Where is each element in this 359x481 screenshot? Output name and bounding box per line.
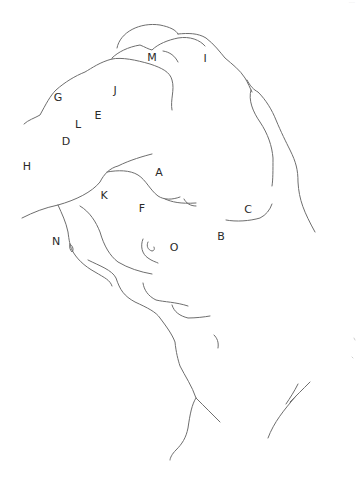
faint-mark: [354, 338, 355, 340]
label-m: M: [147, 52, 157, 63]
label-h: H: [23, 161, 31, 172]
outline-small-tick: [214, 335, 218, 348]
outline-k-line: [80, 206, 152, 274]
label-l: L: [75, 119, 81, 130]
label-n: N: [52, 236, 60, 247]
outline-lower-left: [88, 260, 220, 422]
outline-upper-back: [112, 58, 173, 110]
outline-a-hook: [184, 199, 196, 206]
label-k: K: [100, 190, 107, 201]
label-i: I: [203, 53, 206, 64]
corner-smudge: ·····: [349, 0, 355, 5]
outline-top-arc: [117, 24, 178, 48]
outline-m-ridge: [112, 37, 205, 58]
label-g: G: [54, 92, 63, 103]
label-o: O: [170, 242, 179, 253]
outline-a-tail: [165, 199, 196, 203]
outline-mid-curve-2: [172, 305, 210, 318]
outline-n-arm: [58, 205, 112, 286]
label-j: J: [113, 85, 116, 96]
label-b: B: [217, 231, 225, 242]
outline-right-inner: [250, 90, 273, 186]
outline-right-outer: [247, 80, 315, 232]
outline-a-curve: [107, 171, 180, 199]
label-c: C: [244, 204, 252, 215]
label-d: D: [62, 136, 70, 147]
outline-m-inner-curve: [163, 51, 178, 62]
faint-mark: [352, 357, 353, 358]
outline-top-right: [178, 33, 252, 92]
outline-lower-right: [268, 382, 310, 438]
label-a: A: [155, 167, 163, 178]
outline-o-whorl-inner: [147, 242, 154, 251]
outline-shoulder-line: [22, 154, 152, 218]
outline-lower-branch: [170, 398, 196, 460]
outline-o-whorl-outer: [142, 239, 158, 263]
label-e: E: [95, 110, 102, 121]
label-f: F: [139, 203, 145, 214]
outline-mid-curve-1: [143, 283, 188, 306]
